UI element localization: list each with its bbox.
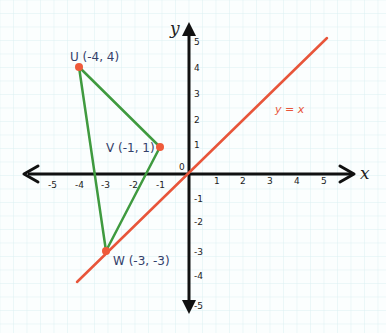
- point-u: [75, 63, 83, 71]
- svg-text:3: 3: [194, 89, 200, 99]
- graph-svg: x y 0 -5 -4 -3 -2 -1 1 2 3 4 5 5 4 3 2 1…: [0, 0, 386, 333]
- svg-text:-3: -3: [194, 247, 203, 257]
- origin-label: 0: [179, 162, 185, 172]
- svg-text:-5: -5: [194, 301, 203, 311]
- grid-background: [0, 0, 386, 333]
- svg-text:-5: -5: [48, 180, 57, 190]
- svg-text:-1: -1: [194, 194, 203, 204]
- point-v: [156, 143, 164, 151]
- point-w: [102, 247, 110, 255]
- point-v-label: V (-1, 1): [106, 141, 155, 155]
- svg-text:1: 1: [214, 176, 220, 186]
- svg-text:2: 2: [194, 115, 200, 125]
- svg-text:-4: -4: [194, 271, 203, 281]
- svg-text:-2: -2: [194, 217, 203, 227]
- svg-text:2: 2: [240, 176, 246, 186]
- svg-text:-1: -1: [156, 180, 165, 190]
- point-u-label: U (-4, 4): [70, 50, 119, 64]
- svg-text:4: 4: [294, 176, 300, 186]
- y-axis-label: y: [169, 18, 180, 38]
- svg-text:4: 4: [194, 63, 200, 73]
- svg-text:-3: -3: [101, 180, 110, 190]
- svg-text:-2: -2: [129, 180, 138, 190]
- svg-text:5: 5: [194, 37, 200, 47]
- svg-text:1: 1: [194, 140, 200, 150]
- svg-text:5: 5: [321, 176, 327, 186]
- svg-text:-4: -4: [75, 180, 84, 190]
- x-axis-label: x: [360, 163, 370, 183]
- point-w-label: W (-3, -3): [113, 254, 170, 268]
- line-label: y = x: [274, 103, 305, 116]
- coordinate-plane: x y 0 -5 -4 -3 -2 -1 1 2 3 4 5 5 4 3 2 1…: [0, 0, 386, 333]
- svg-text:3: 3: [267, 176, 273, 186]
